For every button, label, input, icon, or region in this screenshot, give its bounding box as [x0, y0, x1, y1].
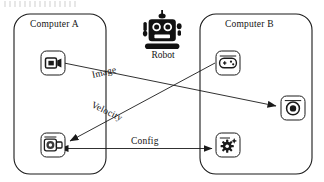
motor-actuator-icon[interactable] [41, 133, 65, 157]
gear-settings-icon[interactable] [216, 133, 240, 157]
video-camera-icon[interactable] [41, 51, 65, 75]
edge-label-config: Config [131, 136, 159, 146]
eye-display-icon[interactable] [281, 96, 305, 120]
computer-b-title: Computer B [225, 19, 274, 29]
robot-icon [143, 10, 182, 49]
computer-a-title: Computer A [30, 19, 79, 29]
robot-label: Robot [147, 50, 179, 60]
gamepad-icon[interactable] [216, 51, 240, 75]
diagram-canvas: Computer A Computer B Robot Image Veloci… [0, 0, 324, 182]
